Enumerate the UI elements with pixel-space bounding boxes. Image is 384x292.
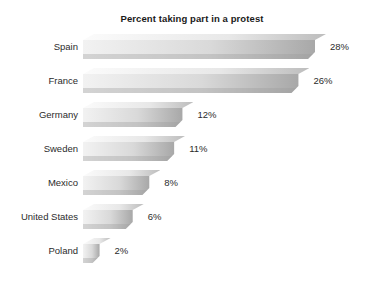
bar-category-label: Spain bbox=[0, 41, 78, 53]
bar-row: Germany12% bbox=[0, 101, 384, 135]
chart-container: Percent taking part in a protest Spain28… bbox=[0, 0, 384, 292]
bar-shape[interactable] bbox=[83, 34, 326, 62]
bar-shape[interactable] bbox=[83, 238, 111, 266]
bar-value-label: 28% bbox=[330, 41, 349, 53]
bar-row: Spain28% bbox=[0, 33, 384, 67]
bar-row: Mexico8% bbox=[0, 169, 384, 203]
bar-category-label: Mexico bbox=[0, 177, 78, 189]
bar-row: United States6% bbox=[0, 203, 384, 237]
bar-category-label: France bbox=[0, 75, 78, 87]
bar-shape[interactable] bbox=[83, 68, 309, 96]
bar-shape[interactable] bbox=[83, 136, 185, 164]
bar-value-label: 8% bbox=[164, 177, 178, 189]
bar-value-label: 11% bbox=[189, 143, 207, 155]
bar-value-label: 6% bbox=[148, 211, 162, 223]
bar-row: Poland2% bbox=[0, 237, 384, 271]
bar-row: France26% bbox=[0, 67, 384, 101]
bar-shape[interactable] bbox=[83, 204, 144, 232]
bar-category-label: United States bbox=[0, 211, 78, 223]
bar-shape[interactable] bbox=[83, 102, 193, 130]
bar-category-label: Germany bbox=[0, 109, 78, 121]
bar-value-label: 26% bbox=[313, 75, 332, 87]
bar-category-label: Poland bbox=[0, 245, 78, 257]
bar-value-label: 2% bbox=[115, 245, 129, 257]
chart-title: Percent taking part in a protest bbox=[0, 13, 384, 24]
bar-value-label: 12% bbox=[197, 109, 216, 121]
bar-row: Sweden11% bbox=[0, 135, 384, 169]
chart-plot-area: Spain28%France26%Germany12%Sweden11%Mexi… bbox=[0, 33, 384, 292]
bar-shape[interactable] bbox=[83, 170, 160, 198]
bar-category-label: Sweden bbox=[0, 143, 78, 155]
